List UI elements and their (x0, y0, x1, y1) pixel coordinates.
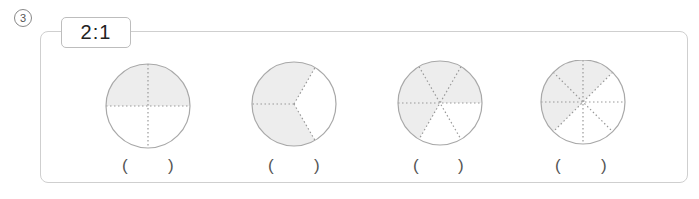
answer-blank[interactable] (280, 156, 312, 176)
question-number: 3 (14, 9, 32, 27)
fraction-circle-icon (98, 60, 198, 155)
fraction-item-1: ( ) (98, 60, 198, 180)
answer-paren-left: ( (555, 156, 561, 176)
answer-paren-right: ) (168, 156, 174, 176)
fraction-circle-icon (390, 60, 490, 155)
fraction-item-2: ( ) (244, 60, 344, 180)
answer-paren-left: ( (413, 156, 419, 176)
ratio-label-box: 2:1 (61, 17, 131, 48)
answer-paren-right: ) (314, 156, 320, 176)
fraction-circle-icon (244, 60, 344, 155)
answer-paren-right: ) (601, 156, 607, 176)
answer-paren-left: ( (268, 156, 274, 176)
answer-paren-right: ) (458, 156, 464, 176)
fraction-circle-icon (533, 60, 633, 155)
fraction-item-4: ( ) (533, 60, 633, 180)
answer-blank[interactable] (569, 156, 601, 176)
answer-blank[interactable] (426, 156, 458, 176)
fraction-item-3: ( ) (390, 60, 490, 180)
answer-paren-left: ( (122, 156, 128, 176)
answer-blank[interactable] (134, 156, 166, 176)
